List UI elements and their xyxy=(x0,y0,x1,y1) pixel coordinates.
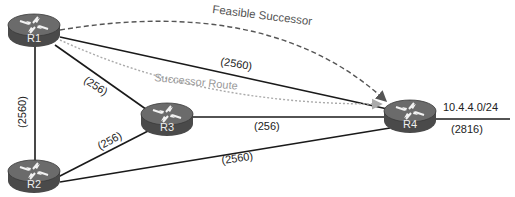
router-r2-label: R2 xyxy=(27,178,41,190)
router-r1-label: R1 xyxy=(27,32,41,44)
metric-r2-r3: (256) xyxy=(95,129,123,152)
network-diagram: R1 R2 R3 R4 (2560) (256) (2560) (256) (2… xyxy=(0,0,515,197)
router-r3[interactable]: R3 xyxy=(141,103,193,136)
feasible-successor-label: Feasible Successor xyxy=(212,3,313,27)
router-r3-label: R3 xyxy=(160,121,174,133)
router-r4[interactable]: R4 xyxy=(384,100,436,133)
router-r2[interactable]: R2 xyxy=(8,160,60,193)
metric-r1-r3: (256) xyxy=(82,74,110,98)
network-metric: (2816) xyxy=(451,123,483,135)
metric-r1-r2: (2560) xyxy=(16,96,28,128)
router-r4-label: R4 xyxy=(403,118,417,130)
link-r1-r4 xyxy=(60,37,392,110)
metric-r2-r4: (2560) xyxy=(221,150,254,166)
link-r1-r3 xyxy=(55,45,150,112)
router-r1[interactable]: R1 xyxy=(8,14,60,47)
metric-r1-r4: (2560) xyxy=(220,55,253,72)
network-prefix: 10.4.4.0/24 xyxy=(443,101,498,113)
metric-r3-r4: (256) xyxy=(254,120,280,132)
